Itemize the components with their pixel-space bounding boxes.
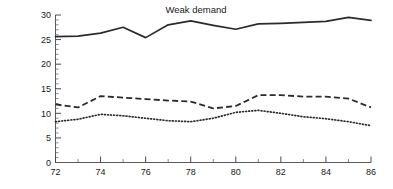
series-dashed-line [56, 95, 372, 108]
y-tick-label: 25 [41, 35, 51, 45]
y-tick-label: 30 [41, 10, 51, 20]
y-tick-label: 5 [46, 133, 51, 143]
y-tick-label: 10 [41, 109, 51, 119]
x-tick-label: 80 [231, 167, 241, 177]
x-tick-label: 72 [50, 167, 60, 177]
y-tick-label: 15 [41, 84, 51, 94]
chart-title: Weak demand [165, 4, 226, 15]
series-solid-line [56, 17, 372, 37]
x-tick-label: 84 [321, 167, 331, 177]
x-axis: 7274767880828486 [50, 157, 376, 177]
series-dotted-line [56, 110, 372, 125]
chart-container: Weak demand 051015202530 727476788082848… [0, 0, 393, 189]
y-axis-tick-labels: 051015202530 [41, 10, 51, 168]
x-tick-label: 86 [366, 167, 376, 177]
y-axis: 051015202530 [41, 10, 61, 168]
x-tick-label: 78 [186, 167, 196, 177]
x-axis-tick-labels: 7274767880828486 [50, 167, 376, 177]
x-tick-label: 76 [141, 167, 151, 177]
data-series-group [56, 17, 372, 125]
weak-demand-line-chart: Weak demand 051015202530 727476788082848… [0, 0, 393, 189]
y-tick-label: 20 [41, 59, 51, 69]
x-tick-label: 74 [96, 167, 106, 177]
x-tick-label: 82 [276, 167, 286, 177]
x-axis-minor-ticks [78, 159, 348, 163]
